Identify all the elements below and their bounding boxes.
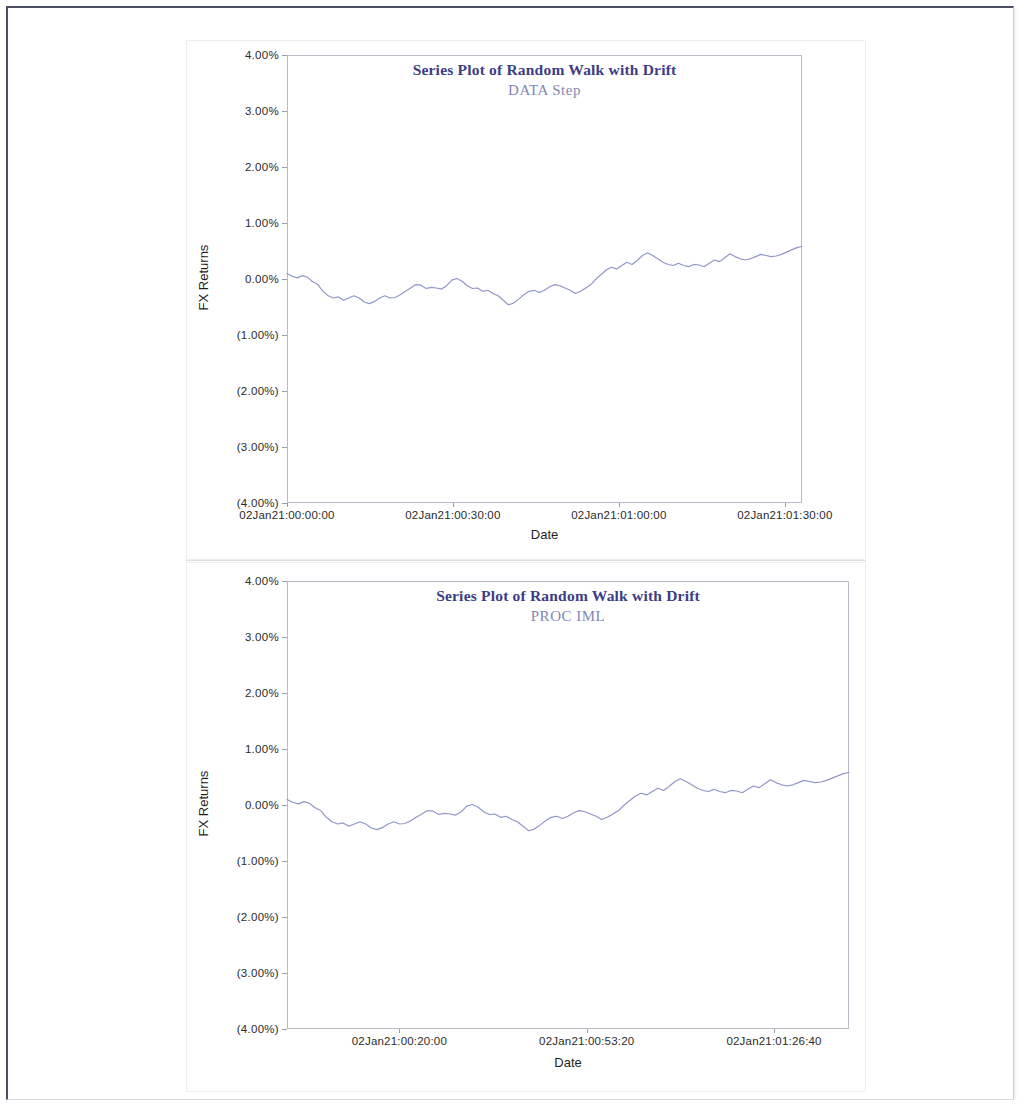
chart-subtitle: PROC IML [287, 608, 849, 625]
y-tick-label: 2.00% [187, 687, 279, 699]
x-axis-title: Date [287, 1055, 849, 1070]
y-tick-mark [282, 917, 287, 918]
x-tick-label: 02Jan21:00:53:20 [539, 1035, 634, 1047]
y-tick-label: 4.00% [187, 49, 279, 61]
x-tick-mark [774, 1029, 775, 1033]
y-tick-label: (3.00%) [187, 441, 279, 453]
y-tick-mark [282, 55, 287, 56]
y-tick-label: (1.00%) [187, 855, 279, 867]
graph-panel-proc-iml[interactable]: Series Plot of Random Walk with Drift PR… [186, 562, 866, 1092]
chart-data-step: Series Plot of Random Walk with Drift DA… [187, 41, 865, 559]
plot-area-data-step [287, 55, 802, 503]
y-tick-mark [282, 805, 287, 806]
y-tick-label: 0.00% [187, 273, 279, 285]
y-tick-mark [282, 167, 287, 168]
page-frame: Series Plot of Random Walk with Drift DA… [6, 6, 1014, 1100]
y-tick-label: (1.00%) [187, 329, 279, 341]
y-tick-mark [282, 111, 287, 112]
chart-title: Series Plot of Random Walk with Drift [287, 587, 849, 605]
x-tick-mark [399, 1029, 400, 1033]
y-tick-mark [282, 749, 287, 750]
y-tick-mark [282, 581, 287, 582]
graph-panel-data-step[interactable]: Series Plot of Random Walk with Drift DA… [186, 40, 866, 560]
x-tick-label: 02Jan21:00:30:00 [405, 509, 500, 521]
x-tick-mark [453, 503, 454, 507]
y-tick-mark [282, 279, 287, 280]
x-axis-title: Date [287, 527, 802, 542]
y-tick-label: 0.00% [187, 799, 279, 811]
y-tick-label: (2.00%) [187, 385, 279, 397]
x-tick-mark [287, 503, 288, 507]
y-tick-mark [282, 693, 287, 694]
y-tick-mark [282, 223, 287, 224]
y-tick-label: (2.00%) [187, 911, 279, 923]
chart-proc-iml: Series Plot of Random Walk with Drift PR… [187, 563, 865, 1091]
y-tick-label: 3.00% [187, 105, 279, 117]
y-tick-mark [282, 861, 287, 862]
y-tick-label: 3.00% [187, 631, 279, 643]
x-tick-mark [587, 1029, 588, 1033]
x-tick-label: 02Jan21:01:00:00 [571, 509, 666, 521]
y-tick-mark [282, 391, 287, 392]
y-tick-label: 2.00% [187, 161, 279, 173]
y-tick-label: (4.00%) [187, 1023, 279, 1035]
x-tick-label: 02Jan21:00:00:00 [239, 509, 334, 521]
panel-separator [186, 560, 866, 561]
y-tick-mark [282, 973, 287, 974]
y-tick-mark [282, 1029, 287, 1030]
chart-title: Series Plot of Random Walk with Drift [287, 61, 802, 79]
y-tick-label: 1.00% [187, 743, 279, 755]
y-tick-label: 4.00% [187, 575, 279, 587]
x-tick-mark [619, 503, 620, 507]
x-tick-label: 02Jan21:00:20:00 [352, 1035, 447, 1047]
graph-output-region: Series Plot of Random Walk with Drift DA… [186, 40, 866, 1092]
y-tick-label: (4.00%) [187, 497, 279, 509]
x-tick-label: 02Jan21:01:26:40 [726, 1035, 821, 1047]
x-tick-label: 02Jan21:01:30:00 [737, 509, 832, 521]
x-tick-mark [785, 503, 786, 507]
y-tick-mark [282, 335, 287, 336]
y-tick-label: (3.00%) [187, 967, 279, 979]
y-tick-label: 1.00% [187, 217, 279, 229]
y-tick-mark [282, 447, 287, 448]
y-tick-mark [282, 637, 287, 638]
chart-subtitle: DATA Step [287, 82, 802, 99]
plot-area-proc-iml [287, 581, 849, 1029]
